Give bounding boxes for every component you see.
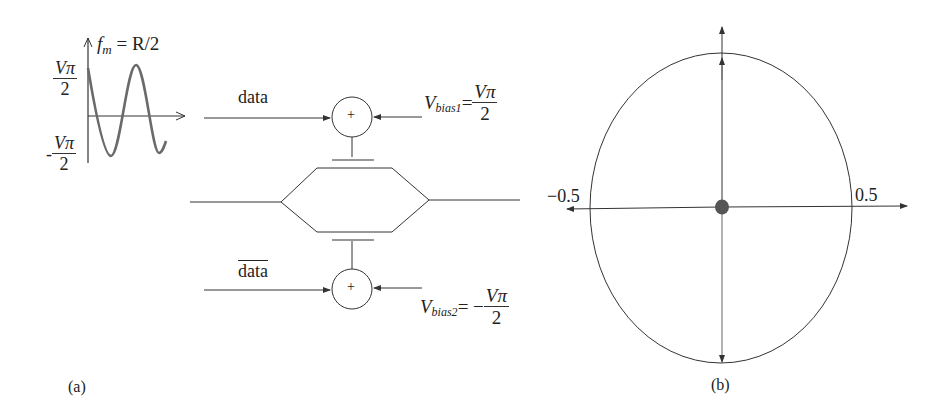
axis-neg-label: −0.5	[547, 187, 580, 205]
vpi-half-bottom-label: -Vπ2	[46, 134, 76, 173]
x-axis-right	[721, 206, 907, 207]
vpi-half-top-label: Vπ2	[53, 59, 77, 98]
vbias2-label: Vbias2= −Vπ2	[420, 286, 509, 327]
upper-adder-plus: +	[347, 108, 355, 122]
panel-a-label: (a)	[68, 379, 86, 395]
data-bar-label: data	[238, 262, 268, 280]
sine-wave	[88, 65, 166, 156]
diagram-canvas	[0, 0, 949, 419]
lower-arm	[204, 240, 422, 309]
lower-adder-plus: +	[347, 280, 355, 294]
upper-arm	[204, 97, 422, 160]
mach-zehnder-modulator	[190, 168, 520, 232]
mzm-arms	[281, 168, 429, 232]
axis-pos-label: 0.5	[855, 186, 878, 204]
data-label: data	[238, 88, 268, 106]
vbias1-label: Vbias1=Vπ2	[424, 82, 497, 123]
panel-b-label: (b)	[711, 377, 730, 393]
origin-point	[715, 200, 729, 215]
freq-label: fm = R/2	[97, 34, 159, 56]
